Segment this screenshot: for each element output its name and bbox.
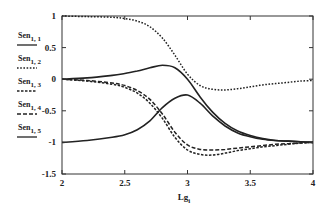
sensitivity-line-chart: Sen1, 1Sen1, 2Sen1, 3Sen1, 4Sen1, 5 10.5… bbox=[0, 0, 331, 214]
y-tick-label: -1.5 bbox=[42, 169, 57, 179]
x-tick-label: 2.5 bbox=[119, 178, 131, 188]
y-tick-label: 0 bbox=[52, 74, 57, 84]
x-axis-label: Lgi bbox=[178, 192, 191, 205]
y-tick-label: 0.5 bbox=[45, 43, 57, 53]
legend: Sen1, 1Sen1, 2Sen1, 3Sen1, 4Sen1, 5 bbox=[17, 31, 41, 137]
x-axis: 22.533.54 bbox=[60, 16, 316, 188]
y-tick-label: -0.5 bbox=[42, 106, 57, 116]
series-line-1 bbox=[62, 65, 313, 142]
x-tick-label: 2 bbox=[60, 178, 65, 188]
legend-label-4: Sen1, 4 bbox=[18, 100, 41, 112]
x-tick-label: 3.5 bbox=[245, 178, 257, 188]
plot-area: 10.50-0.5-1-1.5 22.533.54 bbox=[42, 11, 316, 188]
series-layer bbox=[62, 16, 313, 155]
y-axis: 10.50-0.5-1-1.5 bbox=[42, 11, 313, 179]
y-tick-label: 1 bbox=[52, 11, 57, 21]
legend-label-2: Sen1, 2 bbox=[18, 54, 41, 66]
legend-label-3: Sen1, 3 bbox=[18, 77, 41, 89]
legend-label-5: Sen1, 5 bbox=[18, 123, 41, 135]
y-tick-label: -1 bbox=[49, 137, 57, 147]
legend-label-1: Sen1, 1 bbox=[18, 31, 41, 43]
series-line-5 bbox=[62, 95, 313, 143]
x-tick-label: 3 bbox=[185, 178, 190, 188]
x-axis-label-sub: i bbox=[188, 197, 190, 205]
x-tick-label: 4 bbox=[311, 178, 316, 188]
x-axis-label-main: Lg bbox=[178, 192, 189, 202]
